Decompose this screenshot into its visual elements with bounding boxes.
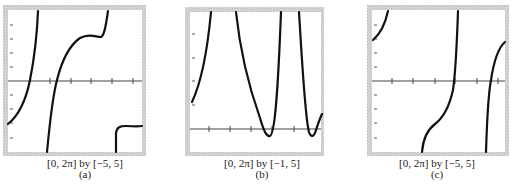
graph-panel-c [367,5,509,156]
panel-c-label: (c) [352,168,515,180]
graph-panel-a [3,5,146,156]
panel-a-label: (a) [0,168,170,180]
graph-panel-b [185,7,324,156]
panel-b-label: (b) [177,168,347,180]
